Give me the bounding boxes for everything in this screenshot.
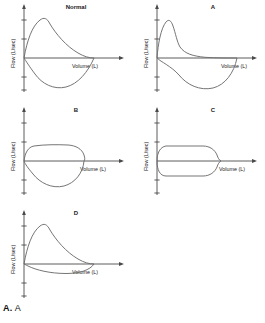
axes — [154, 4, 257, 92]
panel-title: D — [74, 210, 79, 216]
loop-curve — [24, 224, 94, 273]
panel-c: C Flow (L/sec) Volume (L) — [133, 103, 265, 203]
panel-d: D Flow (L/sec) Volume (L) — [0, 206, 132, 306]
y-axis-label: Flow (L/sec) — [10, 141, 16, 171]
panel-title: A — [211, 4, 216, 10]
y-axis-label: Flow (L/sec) — [143, 38, 149, 68]
caption-text: A — [15, 303, 21, 313]
x-axis-label: Volume (L) — [80, 166, 106, 172]
flow-volume-loop-figure: Normal Flow (L/sec) Volume (L) A — [0, 0, 265, 300]
y-axis-label: Flow (L/sec) — [143, 141, 149, 171]
panel-title: Normal — [66, 4, 87, 10]
axes — [21, 4, 124, 92]
loop-curve — [24, 18, 94, 87]
panel-normal: Normal Flow (L/sec) Volume (L) — [0, 0, 132, 100]
panel-title: C — [211, 107, 216, 113]
panel-title: B — [74, 107, 79, 113]
axes — [154, 107, 257, 195]
caption-label: A. — [3, 303, 12, 313]
panel-b: B Flow (L/sec) Volume (L) — [0, 103, 132, 203]
x-axis-label: Volume (L) — [72, 63, 98, 69]
panel-a: A Flow (L/sec) Volume (L) — [133, 0, 265, 100]
y-axis-label: Flow (L/sec) — [10, 38, 16, 68]
y-axis-label: Flow (L/sec) — [10, 244, 16, 274]
figure-caption: A. A — [3, 303, 21, 313]
loop-curve — [24, 145, 85, 187]
x-axis-label: Volume (L) — [219, 166, 245, 172]
loop-curve — [157, 20, 237, 88]
x-axis-label: Volume (L) — [72, 269, 98, 275]
axes — [21, 210, 124, 298]
